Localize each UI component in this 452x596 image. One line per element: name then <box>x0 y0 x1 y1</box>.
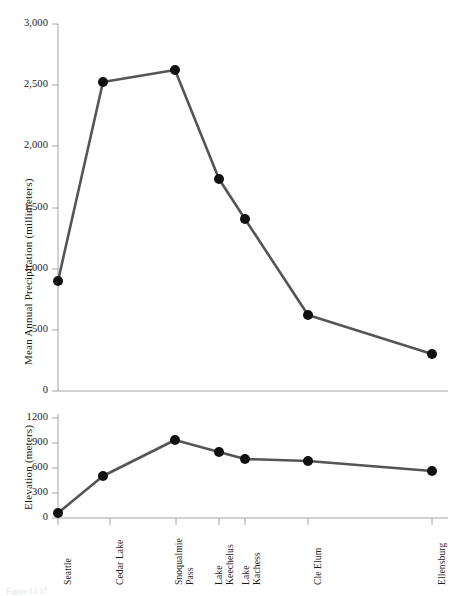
category-label-lake-kachess-line2: Kachess <box>251 552 262 585</box>
precipitation-point-ellensburg <box>427 349 437 359</box>
elevation-ytick-1200: 1200 <box>0 412 48 423</box>
precipitation-series <box>53 65 437 359</box>
precipitation-axes <box>52 24 448 391</box>
precipitation-ytick-0: 0 <box>0 385 48 396</box>
chart-canvas <box>0 0 452 596</box>
category-label-ellensburg: Ellensburg <box>436 543 447 585</box>
category-label-snoqualmie-pass-line2: Pass <box>184 568 195 585</box>
category-label-lake-kachess-line1: Lake <box>240 565 251 585</box>
precipitation-y-ticks <box>52 24 58 391</box>
precipitation-point-lake-kachess <box>240 214 250 224</box>
precipitation-point-snoqualmie-pass <box>170 65 180 75</box>
precipitation-line <box>58 70 432 354</box>
elevation-point-cedar-lake <box>98 471 108 481</box>
precipitation-point-cle-elum <box>303 310 313 320</box>
elevation-point-ellensburg <box>427 466 437 476</box>
precipitation-point-cedar-lake <box>98 77 108 87</box>
elevation-point-seattle <box>53 508 63 518</box>
category-label-seattle: Seattle <box>62 558 73 585</box>
elevation-point-lake-keechelus <box>214 447 224 457</box>
category-label-cedar-lake: Cedar Lake <box>114 540 125 585</box>
elevation-point-snoqualmie-pass <box>170 435 180 445</box>
precipitation-point-seattle <box>53 276 63 286</box>
elevation-axes <box>52 414 448 525</box>
figure-container: 3,000 2,500 2,000 1,500 1,000 500 0 Mean… <box>0 0 452 596</box>
precipitation-ytick-2500: 2,500 <box>0 79 48 90</box>
precipitation-ytick-3000: 3,000 <box>0 18 48 29</box>
elevation-line <box>58 440 432 513</box>
elevation-series <box>53 435 437 518</box>
elevation-axis-title: Elevation (meters) <box>22 425 34 510</box>
category-label-lake-keechelus-line2: Keechelus <box>224 544 235 585</box>
precipitation-axis-title: Mean Annual Precipitation (millimeters) <box>22 178 34 365</box>
precipitation-point-lake-keechelus <box>214 174 224 184</box>
category-label-snoqualmie-pass-line1: Snoqualmie <box>173 538 184 585</box>
category-label-cle-elum: Cle Elum <box>312 548 323 585</box>
elevation-ytick-0: 0 <box>0 512 48 523</box>
elevation-point-cle-elum <box>303 456 313 466</box>
elevation-point-lake-kachess <box>240 454 250 464</box>
elevation-x-ticks <box>58 518 432 525</box>
precipitation-ytick-2000: 2,000 <box>0 140 48 151</box>
elevation-y-ticks <box>52 418 58 518</box>
category-label-lake-keechelus-line1: Lake <box>213 565 224 585</box>
figure-caption-fragment: Figure 14.17 <box>6 587 47 596</box>
